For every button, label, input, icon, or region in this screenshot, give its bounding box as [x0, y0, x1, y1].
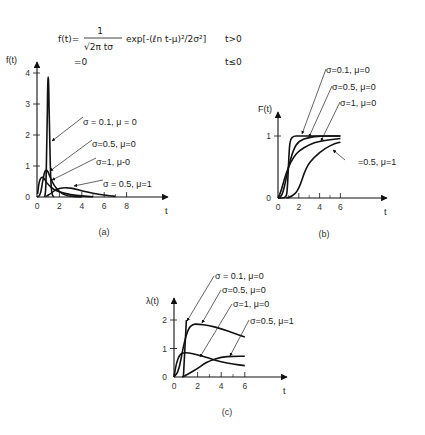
leader-arrow: [52, 117, 83, 141]
leader-arrow: [309, 86, 332, 137]
formula-lhs: f(t)=: [58, 34, 79, 44]
chart-c-hazard: λ(t) t 0246012 σ = 0.1, μ=0 σ=0.5, μ=0 σ…: [146, 271, 294, 417]
x-tick-label: 2: [296, 202, 301, 212]
y-tick-label: 3: [25, 99, 30, 109]
y-axis-label: F(t): [258, 104, 272, 114]
figure-canvas: f(t)= 1 √2π tσ exp[-(ℓn t-μ)²/2σ²] t>0 =…: [0, 0, 425, 435]
leader-arrow: [187, 276, 214, 321]
y-tick-label: 1: [266, 131, 271, 141]
x-tick-label: 4: [79, 201, 84, 211]
legend-label: σ = 0.5, μ=1: [103, 179, 152, 189]
formula-exp: exp[-(ℓn t-μ)²/2σ²]: [126, 34, 206, 44]
leader-arrow: [333, 150, 345, 160]
y-tick-label: 0: [162, 372, 167, 382]
legend-label: σ=1, μ-0: [96, 157, 130, 167]
chart-b-cdf: F(t) t 024601 σ=0.1, μ=0 σ=0.5, μ=0 σ=1,…: [258, 65, 396, 239]
y-tick-label: 1: [25, 161, 30, 171]
leader-arrow: [230, 320, 249, 356]
x-axis-label: t: [165, 206, 168, 216]
x-axis-label: t: [283, 386, 286, 396]
legend: σ=0.1, μ=0 σ=0.5, μ=0 σ=1, μ=0 =0.5, μ=1: [302, 65, 396, 167]
x-tick-label: 6: [242, 381, 247, 391]
legend-label: σ = 0.1, μ = 0: [83, 117, 137, 127]
y-tick-label: 1: [162, 344, 167, 354]
x-tick-label: 6: [338, 202, 343, 212]
x-tick-label: 8: [124, 201, 129, 211]
leader-arrow: [52, 158, 96, 180]
legend-label: σ=0.1, μ=0: [326, 65, 370, 75]
pdf-formula: f(t)= 1 √2π tσ exp[-(ℓn t-μ)²/2σ²] t>0 =…: [58, 26, 242, 67]
x-tick-label: 0: [276, 202, 281, 212]
series-curve: [45, 77, 54, 197]
legend-label: σ=0.5, μ=0: [332, 82, 376, 92]
legend-label: σ=0.5, μ=0: [222, 285, 266, 295]
series-curve: [182, 356, 245, 377]
y-tick-label: 2: [25, 130, 30, 140]
caption: (b): [319, 229, 330, 239]
leader-arrow: [202, 290, 221, 323]
x-tick-label: 0: [35, 201, 40, 211]
x-tick-label: 6: [102, 201, 107, 211]
ticks: 0246012: [162, 315, 247, 391]
y-axis-label: λ(t): [146, 296, 159, 306]
caption: (a): [99, 227, 110, 237]
leader-arrow: [50, 140, 92, 171]
y-axis-label: f(t): [6, 55, 17, 65]
legend-label: σ=1, μ=0: [340, 98, 376, 108]
formula-denominator: √2π tσ: [84, 42, 113, 52]
x-tick-label: 4: [317, 202, 322, 212]
formula-zero: =0: [74, 57, 88, 67]
legend: σ = 0.1, μ = 0 σ=0.5, μ=0 σ=1, μ-0 σ = 0…: [50, 117, 152, 189]
leader-arrow: [302, 69, 326, 134]
curves: [278, 136, 340, 198]
legend-label: σ=0.5, μ=0: [92, 139, 136, 149]
legend-label: =0.5, μ=1: [358, 157, 396, 167]
y-tick-label: 0: [266, 193, 271, 203]
x-tick-label: 2: [195, 381, 200, 391]
formula-numerator: 1: [97, 26, 103, 36]
x-tick-label: 4: [219, 381, 224, 391]
x-axis-label: t: [384, 207, 387, 217]
y-tick-label: 2: [162, 315, 167, 325]
leader-arrow: [321, 102, 340, 141]
legend-label: σ=0.5, μ=1: [250, 316, 294, 326]
series-curve: [286, 142, 340, 198]
legend-label: σ=1, μ=0: [233, 299, 269, 309]
legend: σ = 0.1, μ=0 σ=0.5, μ=0 σ=1, μ=0 σ=0.5, …: [187, 271, 294, 357]
legend-label: σ = 0.1, μ=0: [215, 271, 264, 281]
x-tick-label: 2: [57, 201, 62, 211]
formula-cond2: t≤0: [225, 57, 242, 67]
caption: (c): [222, 407, 233, 417]
y-tick-label: 4: [25, 68, 30, 78]
leader-arrow: [74, 180, 103, 186]
y-tick-label: 0: [25, 192, 30, 202]
formula-cond1: t>0: [225, 34, 242, 44]
x-tick-label: 0: [172, 381, 177, 391]
chart-a-pdf: f(t) t 0246801234 σ = 0.1, μ = 0 σ=0.5, …: [6, 55, 168, 237]
